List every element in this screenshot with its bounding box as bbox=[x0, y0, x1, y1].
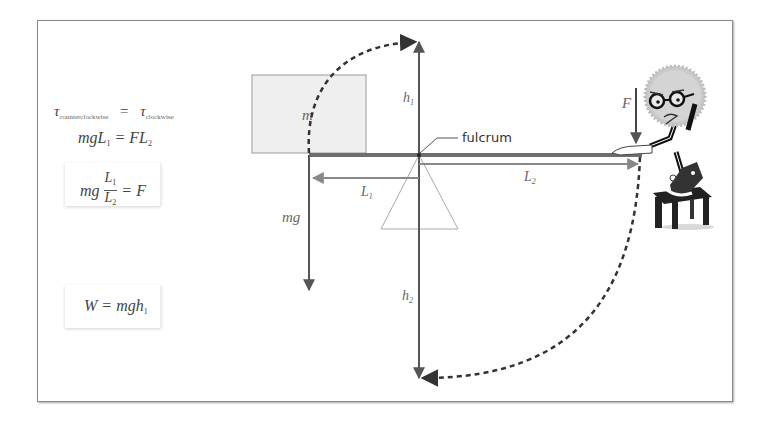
gear-head-icon bbox=[645, 66, 705, 130]
force-label: F bbox=[621, 95, 632, 111]
arm1-label: L1 bbox=[360, 184, 373, 201]
lever-diagram: m h1 h2 fulcrum L1 L2 mg F bbox=[0, 0, 763, 423]
fulcrum-leader-line bbox=[420, 138, 458, 153]
pivot-point bbox=[417, 153, 421, 157]
h2-label: h2 bbox=[402, 288, 413, 305]
weight-label: mg bbox=[282, 209, 301, 225]
h1-label: h1 bbox=[403, 90, 414, 107]
glove-hand-icon bbox=[612, 145, 652, 155]
effort-swing-arc bbox=[424, 157, 640, 378]
arm2-label: L2 bbox=[523, 169, 536, 186]
cartoon-gear-character bbox=[612, 66, 714, 230]
fulcrum-label: fulcrum bbox=[462, 130, 512, 145]
